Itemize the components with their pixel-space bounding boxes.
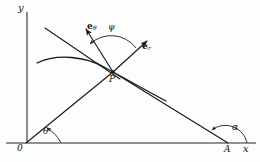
trajectory-curve — [37, 57, 166, 101]
diagram-svg — [0, 0, 260, 162]
psi-angle-label: ψ — [108, 23, 115, 32]
construction-lines — [26, 28, 228, 143]
x-axis-label: x — [243, 144, 249, 154]
e-theta-subscript: θ — [93, 24, 97, 31]
theta-arc — [47, 128, 61, 143]
point-p-label: P — [109, 75, 115, 84]
alpha-arc — [212, 125, 247, 143]
origin-label: 0 — [17, 144, 23, 153]
radius-vector-op — [26, 72, 113, 143]
point-a-label: A — [224, 145, 231, 154]
e-r-vector-label: er — [142, 42, 151, 51]
e-r-subscript: r — [148, 44, 151, 51]
e-r-base: e — [142, 41, 148, 51]
e-theta-vector-label: eθ — [87, 22, 97, 31]
figure-canvas: y x 0 P A θ ψ α eθ er — [0, 0, 260, 162]
axis-group — [6, 12, 256, 143]
e-theta-base: e — [87, 21, 93, 31]
alpha-angle-label: α — [232, 123, 238, 132]
theta-angle-label: θ — [43, 127, 48, 136]
chord-pa — [113, 72, 228, 143]
angle-arcs — [47, 36, 247, 143]
y-axis-label: y — [18, 3, 24, 13]
